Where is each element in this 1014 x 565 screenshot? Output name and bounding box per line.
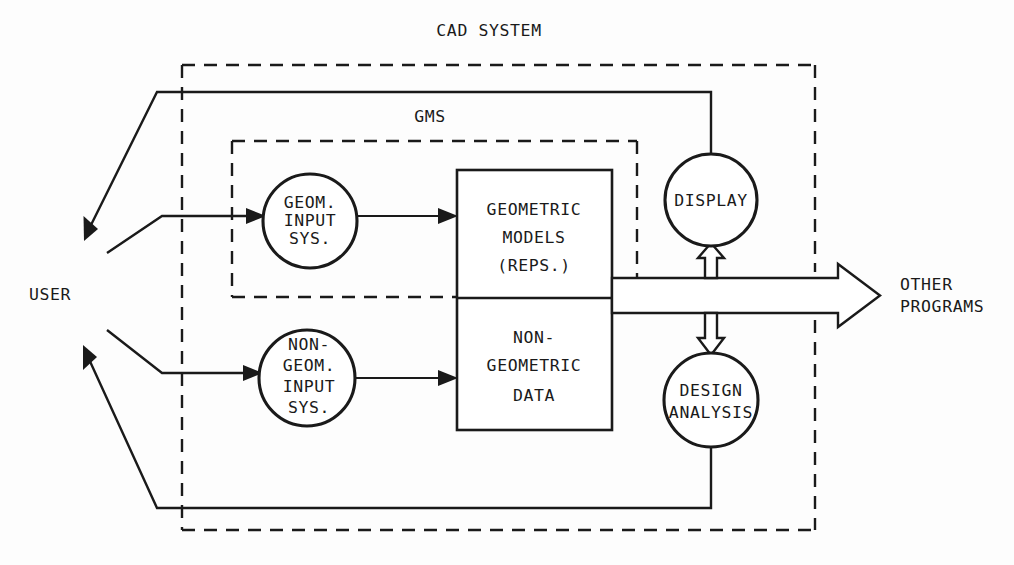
display-feed-hollow-arrow — [698, 243, 724, 278]
nongeom-input-to-data-path — [355, 370, 458, 386]
user-to-geom-input-path — [107, 208, 266, 253]
geom-input-sys-label-line2: INPUT — [284, 211, 337, 230]
design-analysis-label-line2: ANALYSIS — [669, 403, 753, 422]
diagram-canvas: CAD SYSTEM GMS USER — [0, 0, 1014, 565]
nongeom-input-sys-label-line3: INPUT — [283, 377, 336, 396]
user-to-geom-input-line — [107, 216, 249, 253]
cad-system-title: CAD SYSTEM — [436, 21, 541, 40]
nongeometric-data-label-line1: NON- — [513, 328, 555, 347]
geometric-models-label-line2: MODELS — [502, 228, 565, 247]
nongeom-input-sys-label-line2: GEOM. — [283, 356, 336, 375]
geom-input-to-models-path — [357, 208, 458, 224]
nongeometric-data-label-line2: GEOMETRIC — [487, 356, 582, 375]
display-label: DISPLAY — [674, 191, 748, 210]
gms-title: GMS — [414, 107, 446, 126]
geom-input-sys-label-line1: GEOM. — [284, 193, 337, 212]
nongeom-input-sys-label-line4: SYS. — [288, 398, 330, 417]
user-to-nongeom-input-line — [107, 330, 246, 373]
geometric-models-label-line1: GEOMETRIC — [487, 200, 582, 219]
other-programs-label-line1: OTHER — [900, 275, 953, 294]
design-analysis-to-user-path — [83, 345, 711, 508]
design-analysis-to-user-arrowhead — [83, 345, 97, 370]
geom-input-to-models-arrowhead — [438, 208, 458, 224]
display-to-user-path — [84, 92, 712, 241]
user-label: USER — [29, 285, 71, 304]
design-analysis-feed-hollow-arrow — [698, 313, 724, 355]
nongeom-input-to-data-arrowhead — [438, 370, 458, 386]
geometric-models-label-line3: (REPS.) — [497, 256, 571, 275]
geom-input-sys-label-line3: SYS. — [289, 229, 331, 248]
other-programs-block-arrow — [612, 264, 880, 327]
design-analysis-label-line1: DESIGN — [679, 381, 742, 400]
cad-system-diagram: CAD SYSTEM GMS USER — [0, 0, 1014, 565]
nongeom-input-sys-label-line1: NON- — [288, 335, 330, 354]
nongeometric-data-label-line3: DATA — [513, 386, 555, 405]
design-analysis-node — [664, 353, 758, 447]
user-to-nongeom-input-path — [107, 330, 263, 381]
display-to-user-arrowhead — [84, 216, 99, 241]
other-programs-label-line2: PROGRAMS — [900, 297, 984, 316]
